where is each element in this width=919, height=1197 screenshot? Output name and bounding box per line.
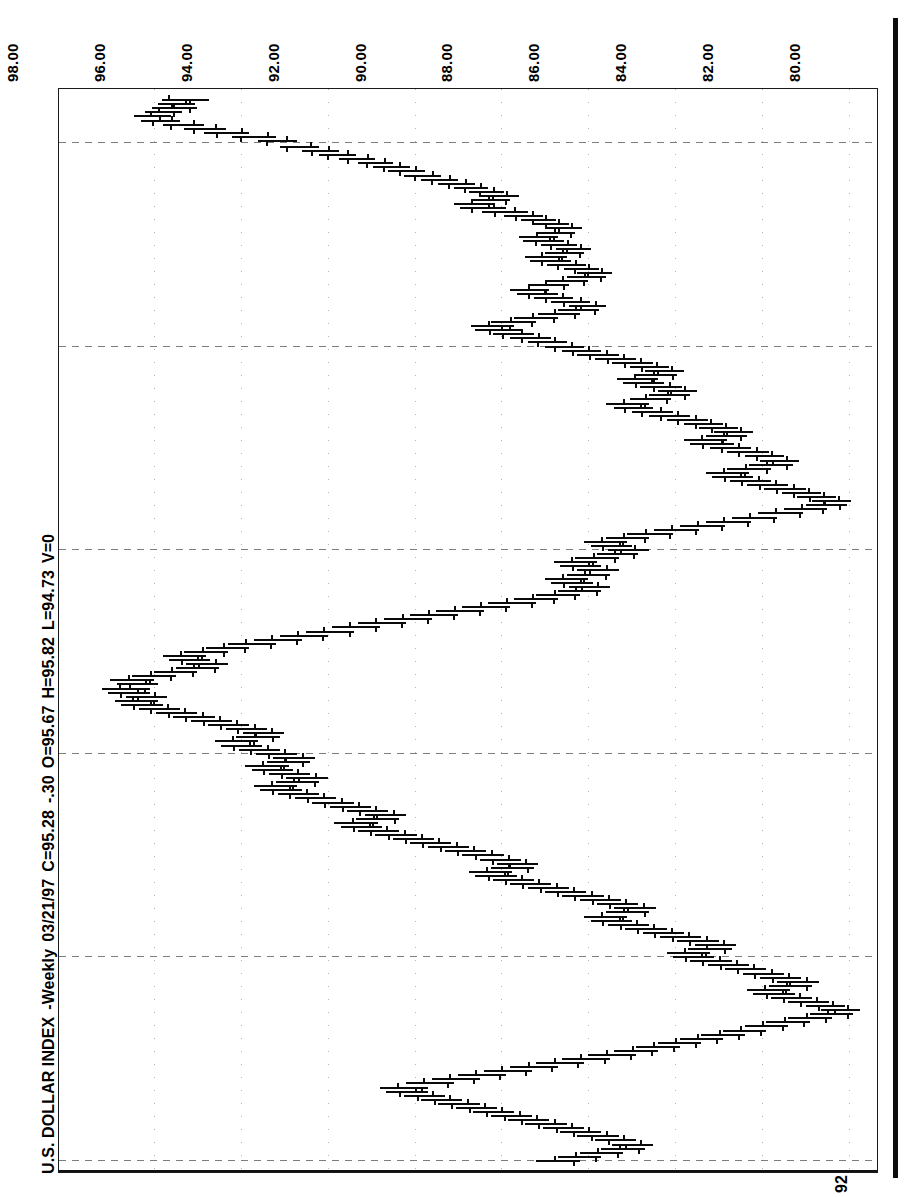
ohlc-close-tick [702,444,704,449]
ohlc-close-tick [589,355,591,360]
ohlc-close-tick [553,318,555,323]
ohlc-close-tick [515,216,517,221]
ohlc-open-tick [667,390,669,395]
ohlc-open-tick [386,826,388,831]
interval-label: -Weekly [40,949,57,1010]
ohlc-high-low-range [564,268,599,270]
ohlc-high-low-range [595,358,636,360]
ohlc-high-low-range [260,789,301,791]
ohlc-close-tick [653,387,655,392]
ohlc-open-tick [554,1119,556,1124]
ohlc-open-tick [745,464,747,469]
ohlc-close-tick [573,1132,575,1137]
ohlc-high-low-range [521,219,556,221]
ohlc-high-low-range [208,724,249,726]
ohlc-open-tick [215,124,217,129]
ohlc-high-low-range [254,785,297,787]
year-gridline [59,1160,877,1161]
ohlc-open-tick [623,1135,625,1140]
ohlc-high-low-range [295,797,336,799]
ohlc-close-tick [556,1128,558,1133]
ohlc-close-tick [624,363,626,368]
ohlc-open-tick [538,879,540,884]
ohlc-high-low-range [547,227,582,229]
ohlc-open-tick [310,142,312,147]
ohlc-open-tick [695,415,697,420]
ohlc-high-low-range [462,854,503,856]
ohlc-high-low-range [547,264,586,266]
ohlc-open-tick [173,103,175,108]
ohlc-open-tick [623,399,625,404]
ohlc-close-tick [388,835,390,840]
ohlc-open-tick [554,309,556,314]
ohlc-close-tick [721,526,723,531]
ohlc-close-tick [573,1161,575,1166]
ohlc-open-tick [749,513,751,518]
ohlc-open-tick [623,907,625,912]
ohlc-open-tick [625,899,627,904]
ohlc-close-tick [756,456,758,461]
ohlc-high-low-range [239,749,280,751]
ohlc-open-tick [753,964,755,969]
ohlc-close-tick [359,811,361,816]
ohlc-high-low-range [558,590,601,592]
ohlc-close-tick [630,1055,632,1060]
ohlc-close-tick [772,978,774,983]
ohlc-high-low-range [667,419,708,421]
ohlc-close-tick [240,137,242,142]
price-gridline [762,89,763,1172]
ohlc-open-tick [838,496,840,501]
ohlc-open-tick [302,753,304,758]
ohlc-close-tick [806,986,808,991]
ohlc-open-tick [623,354,625,359]
ohlc-open-tick [393,810,395,815]
ohlc-open-tick [267,745,269,750]
ohlc-open-tick [541,252,543,257]
ohlc-close-tick [602,546,604,551]
ohlc-close-tick [721,448,723,453]
high-value: H=95.82 [40,637,57,699]
ohlc-open-tick [315,773,317,778]
ohlc-open-tick [384,158,386,163]
ohlc-close-tick [563,302,565,307]
ohlc-open-tick [402,614,404,619]
ohlc-close-tick [783,998,785,1003]
ohlc-high-low-range [514,317,557,319]
ohlc-open-tick [595,301,597,306]
ohlc-open-tick [788,973,790,978]
ohlc-high-low-range [699,427,738,429]
ohlc-close-tick [551,1067,553,1072]
ohlc-high-low-range [554,561,597,563]
ohlc-high-low-range [712,476,753,478]
ohlc-open-tick [723,940,725,945]
ohlc-close-tick [170,125,172,130]
ohlc-high-low-range [278,793,319,795]
ohlc-open-tick [632,1046,634,1051]
ohlc-close-tick [447,1083,449,1088]
ohlc-high-low-range [708,964,749,966]
ohlc-open-tick [784,1017,786,1022]
ohlc-high-low-range [580,899,621,901]
ohlc-open-tick [762,1021,764,1026]
ohlc-high-low-range [491,1115,532,1117]
ohlc-high-low-range [627,533,673,535]
ohlc-high-low-range [410,842,451,844]
ohlc-high-low-range [454,187,489,189]
ohlc-open-tick [640,403,642,408]
ohlc-high-low-range [606,911,649,913]
ohlc-close-tick [453,615,455,620]
ohlc-open-tick [184,708,186,713]
ohlc-open-tick [168,95,170,100]
ohlc-close-tick [244,648,246,653]
ohlc-open-tick [167,704,169,709]
ohlc-close-tick [464,188,466,193]
ohlc-close-tick [574,595,576,600]
ohlc-close-tick [289,794,291,799]
ohlc-open-tick [558,219,560,224]
ohlc-close-tick [803,1022,805,1027]
ohlc-open-tick [697,1034,699,1039]
ohlc-close-tick [440,847,442,852]
ohlc-close-tick [502,334,504,339]
ohlc-close-tick [574,896,576,901]
ohlc-close-tick [538,1124,540,1129]
